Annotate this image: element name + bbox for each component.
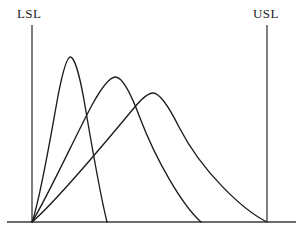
lsl-label: LSL: [17, 7, 41, 20]
distribution-plot: [0, 0, 303, 240]
distribution-curve-1: [32, 57, 107, 222]
process-capability-figure: LSL USL: [0, 0, 303, 240]
usl-label: USL: [253, 7, 279, 20]
distribution-curve-3: [32, 93, 267, 222]
